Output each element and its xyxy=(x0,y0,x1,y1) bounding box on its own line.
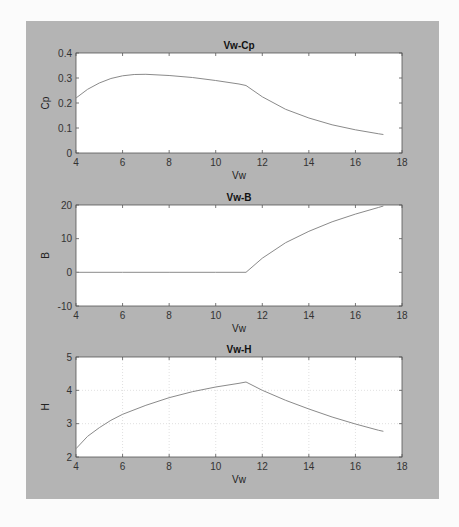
x-tick-label: 12 xyxy=(257,310,269,321)
chart-title: Vw-Cp xyxy=(223,40,254,51)
plot-area xyxy=(76,53,402,153)
x-tick-label: 18 xyxy=(396,461,408,472)
x-tick-label: 12 xyxy=(257,461,269,472)
x-tick-label: 8 xyxy=(166,310,172,321)
y-tick-label: 10 xyxy=(61,233,73,244)
chart-title: Vw-H xyxy=(227,344,252,355)
y-tick-label: 3 xyxy=(66,418,72,429)
x-tick-label: 18 xyxy=(396,157,408,168)
x-tick-label: 8 xyxy=(166,157,172,168)
x-tick-label: 16 xyxy=(350,310,362,321)
x-tick-label: 10 xyxy=(210,461,222,472)
x-tick-label: 14 xyxy=(303,310,315,321)
x-tick-label: 6 xyxy=(120,157,126,168)
x-tick-label: 14 xyxy=(303,461,315,472)
chart-figure: 468101214161800.10.20.30.4Vw-CpVwCp46810… xyxy=(0,0,459,527)
x-tick-label: 6 xyxy=(120,461,126,472)
x-tick-label: 10 xyxy=(210,157,222,168)
x-tick-label: 8 xyxy=(166,461,172,472)
plot-area xyxy=(76,205,402,306)
x-tick-label: 10 xyxy=(210,310,222,321)
x-tick-label: 4 xyxy=(73,310,79,321)
y-tick-label: 0.2 xyxy=(58,98,72,109)
y-tick-label: 0.4 xyxy=(58,48,72,59)
x-tick-label: 16 xyxy=(350,157,362,168)
x-tick-label: 18 xyxy=(396,310,408,321)
x-tick-label: 4 xyxy=(73,157,79,168)
x-tick-label: 4 xyxy=(73,461,79,472)
y-tick-label: 5 xyxy=(66,352,72,363)
x-axis-label: Vw xyxy=(232,474,247,485)
y-axis-label: Cp xyxy=(40,96,51,109)
x-tick-label: 12 xyxy=(257,157,269,168)
y-axis-label: B xyxy=(40,252,51,259)
x-tick-label: 6 xyxy=(120,310,126,321)
y-tick-label: 20 xyxy=(61,200,73,211)
y-tick-label: 2 xyxy=(66,452,72,463)
chart-title: Vw-B xyxy=(227,192,252,203)
y-tick-label: 0.1 xyxy=(58,123,72,134)
x-axis-label: Vw xyxy=(232,323,247,334)
x-tick-label: 16 xyxy=(350,461,362,472)
y-tick-label: 0 xyxy=(66,148,72,159)
y-tick-label: -10 xyxy=(58,301,73,312)
x-tick-label: 14 xyxy=(303,157,315,168)
y-axis-label: H xyxy=(40,403,51,410)
plot-area xyxy=(76,357,402,457)
x-axis-label: Vw xyxy=(232,170,247,181)
y-tick-label: 0 xyxy=(66,267,72,278)
y-tick-label: 4 xyxy=(66,385,72,396)
y-tick-label: 0.3 xyxy=(58,73,72,84)
